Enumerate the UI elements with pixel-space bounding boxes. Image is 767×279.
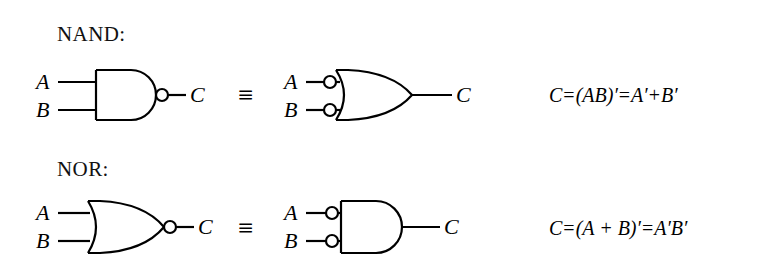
- nor-right-input-a-label: A: [284, 200, 297, 226]
- nand-right-gate-body: [336, 70, 412, 120]
- nor-left-gate-back: [88, 201, 96, 253]
- nand-right-input-bubble-b: [324, 104, 336, 116]
- nand-right-output-c-label: C: [456, 82, 471, 108]
- nor-eq-rhs-left: A′: [654, 217, 671, 239]
- nor-right-input-bubble-b: [326, 235, 338, 247]
- nor-right-output-c-label: C: [444, 214, 459, 240]
- nor-equation: C=(A + B)′=A′B′: [549, 217, 687, 240]
- nor-left-output-bubble: [164, 221, 176, 233]
- nand-eq-rhs-right: B′: [661, 84, 678, 106]
- nand-eq-lhs: C: [549, 84, 562, 106]
- nor-right-gate-body: [341, 201, 402, 253]
- nand-left-and-gate: [58, 70, 186, 120]
- nor-left-gate-body: [88, 201, 164, 253]
- nor-eq-equals-2: =: [641, 217, 654, 239]
- nor-eq-rhs-right: B′: [671, 217, 688, 239]
- nor-right-and-gate: [306, 201, 440, 253]
- nor-left-input-b-label: B: [36, 228, 49, 254]
- nand-eq-equals-2: =: [618, 84, 631, 106]
- nor-left-or-gate: [58, 201, 194, 253]
- nor-left-output-c-label: C: [198, 214, 213, 240]
- nor-left-input-a-label: A: [36, 200, 49, 226]
- nand-eq-mid: (AB)′: [576, 84, 618, 106]
- nor-eq-lhs: C: [549, 217, 562, 239]
- nand-left-gate-body: [96, 70, 156, 120]
- nand-eq-plus: +: [648, 84, 661, 106]
- nor-eq-equals-1: =: [562, 217, 575, 239]
- nand-right-input-a-label: A: [284, 69, 297, 95]
- nand-right-input-bubble-a: [324, 76, 336, 88]
- nand-right-input-b-label: B: [284, 97, 297, 123]
- nand-left-output-bubble: [156, 89, 168, 101]
- nor-eq-mid: (A + B)′: [576, 217, 641, 239]
- nand-eq-rhs-left: A′: [631, 84, 648, 106]
- nor-right-input-b-label: B: [284, 228, 297, 254]
- nand-eq-equals-1: =: [562, 84, 575, 106]
- nor-right-input-bubble-a: [326, 207, 338, 219]
- nand-right-or-gate: [306, 70, 452, 120]
- nand-right-gate-back: [336, 70, 344, 120]
- nand-equation: C=(AB)′=A′+B′: [549, 84, 678, 107]
